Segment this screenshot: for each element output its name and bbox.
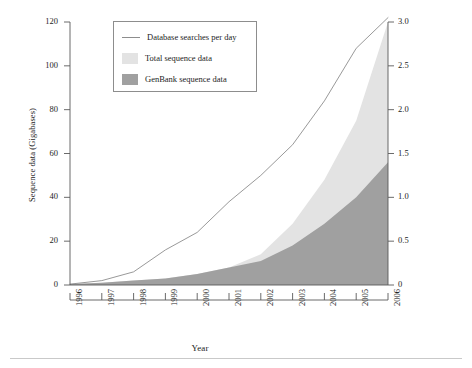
legend-label-searches: Database searches per day [147,33,236,42]
footer-divider [10,358,462,359]
y-axis-right-tick-label: 0.5 [398,235,432,245]
x-axis-tick-label: 2000 [201,289,211,306]
x-axis-tick-label: 2005 [360,289,370,306]
x-axis-tick-label: 2003 [297,289,307,306]
y-axis-left-tick-label: 0 [24,279,58,289]
legend-label-total: Total sequence data [145,54,212,63]
y-axis-right-tick-label: 0 [398,279,432,289]
legend-label-genbank: GenBank sequence data [145,75,227,84]
x-axis-title: Year [0,343,400,353]
legend-item-total: Total sequence data [122,51,212,65]
legend-line-marker-icon [122,37,140,38]
y-axis-right-tick-label: 1.5 [398,148,432,158]
x-axis-tick-label: 2002 [265,289,275,306]
y-axis-right-tick-label: 1.0 [398,191,432,201]
chart-figure: Sequence data (Gigabases) Database searc… [0,0,472,368]
y-axis-right-tick-label: 2.0 [398,104,432,114]
y-axis-left-tick-label: 100 [24,60,58,70]
y-axis-left-tick-label: 40 [24,191,58,201]
legend-swatch-total-icon [122,53,138,64]
x-axis-tick-label: 1999 [169,289,179,306]
chart-legend: Database searches per day Total sequence… [113,21,257,92]
x-axis-tick-label: 2004 [328,289,338,306]
x-axis-tick-label: 2006 [392,289,402,306]
y-axis-right-tick-label: 2.5 [398,60,432,70]
y-axis-left-tick-label: 60 [24,148,58,158]
x-axis-tick-label: 1996 [74,289,84,306]
x-axis-tick-label: 1998 [138,289,148,306]
y-axis-left-tick-label: 80 [24,104,58,114]
y-axis-left-tick-label: 20 [24,235,58,245]
x-axis-tick-label: 1997 [106,289,116,306]
legend-item-searches: Database searches per day [122,30,236,44]
y-axis-right-tick-label: 3.0 [398,16,432,26]
legend-item-genbank: GenBank sequence data [122,72,227,86]
x-axis-tick-label: 2001 [233,289,243,306]
y-axis-left-tick-label: 120 [24,16,58,26]
legend-swatch-genbank-icon [122,74,138,85]
